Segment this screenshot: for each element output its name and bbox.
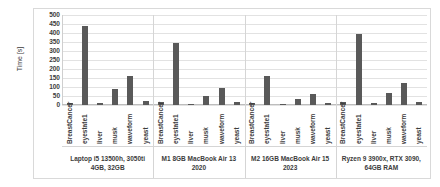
bar-slot <box>381 15 396 105</box>
bar-slot <box>62 15 77 105</box>
category-slot: waveform <box>305 106 320 146</box>
category-label: BreastCancer <box>157 102 164 144</box>
category-slot: eyestate1 <box>77 106 92 146</box>
bar[interactable] <box>234 102 240 105</box>
category-label: musk <box>111 127 118 144</box>
category-label: waveform <box>309 114 316 144</box>
bar[interactable] <box>143 101 149 105</box>
category-slot: liver <box>366 106 381 146</box>
bar-groups <box>62 15 427 105</box>
bar[interactable] <box>127 76 133 105</box>
machine-label-band: Laptop i5 13500h, 3050ti 4GB, 32GBM1 8GB… <box>62 146 427 178</box>
bar[interactable] <box>188 104 194 105</box>
bar-slot <box>397 15 412 105</box>
category-label: waveform <box>400 114 407 144</box>
bar[interactable] <box>97 103 103 105</box>
category-label: waveform <box>218 114 225 144</box>
category-label: liver <box>187 131 194 144</box>
y-tick-label: 500 <box>36 11 60 18</box>
bar-slot <box>168 15 183 105</box>
category-label: eyestate1 <box>355 114 362 144</box>
category-slot: liver <box>184 106 199 146</box>
category-slot: eyestate1 <box>351 106 366 146</box>
category-slot: eyestate1 <box>260 106 275 146</box>
bar[interactable] <box>203 96 209 105</box>
bar-slot <box>366 15 381 105</box>
category-slot: eyestate1 <box>168 106 183 146</box>
bar-group <box>62 15 153 105</box>
category-slot: musk <box>290 106 305 146</box>
bar[interactable] <box>295 99 301 105</box>
bar[interactable] <box>310 94 316 105</box>
y-axis-tick-labels: 500450400350300250200150100500 <box>36 14 60 106</box>
machine-label: M1 8GB MacBook Air 13 2020 <box>153 147 244 178</box>
bar[interactable] <box>280 104 286 105</box>
category-label-band: BreastCancereyestate1livermuskwaveformye… <box>62 106 427 146</box>
category-slot: musk <box>199 106 214 146</box>
bar[interactable] <box>173 43 179 105</box>
bar-slot <box>351 15 366 105</box>
category-label: eyestate1 <box>172 114 179 144</box>
category-label: eyestate1 <box>263 114 270 144</box>
bar-slot <box>229 15 244 105</box>
category-label: musk <box>385 127 392 144</box>
bar-group <box>153 15 244 105</box>
bar-slot <box>336 15 351 105</box>
category-slot: musk <box>381 106 396 146</box>
plot-area <box>62 15 427 105</box>
y-tick-label: 300 <box>36 47 60 54</box>
category-slot: liver <box>92 106 107 146</box>
y-tick-label: 0 <box>36 101 60 108</box>
category-group: BreastCancereyestate1livermuskwaveformye… <box>245 106 336 146</box>
machine-label: Laptop i5 13500h, 3050ti 4GB, 32GB <box>62 147 153 178</box>
bar-slot <box>123 15 138 105</box>
bar[interactable] <box>82 26 88 105</box>
bar[interactable] <box>219 88 225 105</box>
bar[interactable] <box>401 83 407 105</box>
bar[interactable] <box>371 103 377 105</box>
bar-slot <box>153 15 168 105</box>
y-tick-label: 150 <box>36 74 60 81</box>
y-tick-label: 50 <box>36 92 60 99</box>
category-label: yeast <box>324 127 331 144</box>
category-label: liver <box>370 131 377 144</box>
y-tick-label: 400 <box>36 29 60 36</box>
category-slot: waveform <box>214 106 229 146</box>
category-label: yeast <box>233 127 240 144</box>
category-slot: waveform <box>123 106 138 146</box>
bar-slot <box>305 15 320 105</box>
bar[interactable] <box>386 93 392 105</box>
category-label: musk <box>294 127 301 144</box>
bar-slot <box>412 15 427 105</box>
category-slot: BreastCancer <box>336 106 351 146</box>
bar-slot <box>275 15 290 105</box>
category-label: yeast <box>142 127 149 144</box>
bar[interactable] <box>325 103 331 105</box>
bar[interactable] <box>264 76 270 105</box>
category-slot: BreastCancer <box>153 106 168 146</box>
chart-figure: Time [s] 500450400350300250200150100500 … <box>0 0 440 187</box>
bar-group <box>245 15 336 105</box>
bar-slot <box>214 15 229 105</box>
bar-slot <box>321 15 336 105</box>
category-slot: yeast <box>138 106 153 146</box>
category-slot: yeast <box>321 106 336 146</box>
category-label: liver <box>96 131 103 144</box>
y-tick-label: 450 <box>36 20 60 27</box>
machine-label: M2 16GB MacBook Air 15 2023 <box>245 147 336 178</box>
category-label: liver <box>279 131 286 144</box>
category-slot: yeast <box>229 106 244 146</box>
bar-slot <box>92 15 107 105</box>
category-slot: yeast <box>412 106 427 146</box>
category-label: BreastCancer <box>339 102 346 144</box>
bar[interactable] <box>112 89 118 105</box>
bar-slot <box>108 15 123 105</box>
category-slot: musk <box>108 106 123 146</box>
y-tick-label: 250 <box>36 56 60 63</box>
machine-label: Ryzen 9 3900x, RTX 3090, 64GB RAM <box>336 147 427 178</box>
bar[interactable] <box>356 34 362 105</box>
bar[interactable] <box>416 102 422 105</box>
category-group: BreastCancereyestate1livermuskwaveformye… <box>62 106 153 146</box>
category-label: BreastCancer <box>66 102 73 144</box>
category-label: musk <box>202 127 209 144</box>
